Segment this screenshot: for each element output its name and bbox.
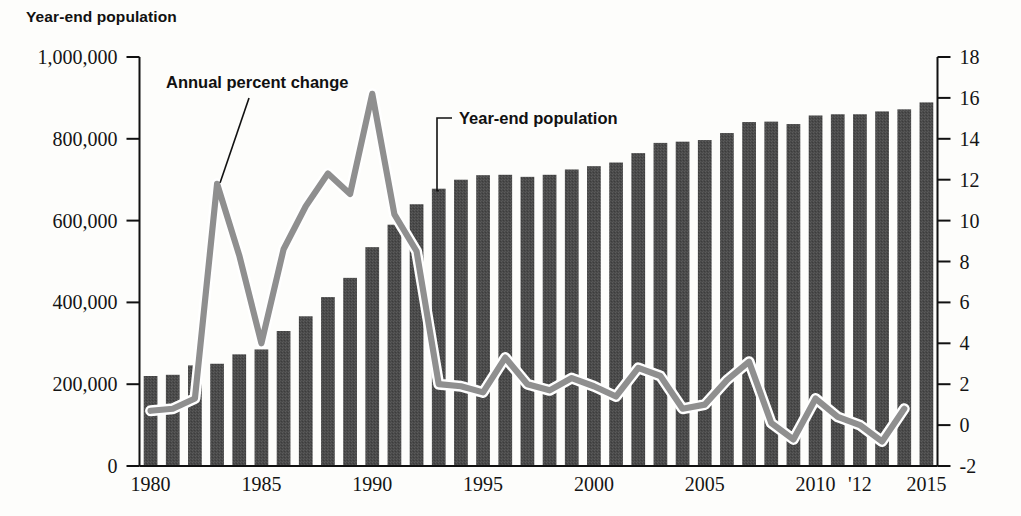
bar [587,166,601,466]
bar [277,331,291,466]
x-tick-label: 2000 [574,473,614,495]
y2-tick-label: 4 [960,332,970,354]
y2-tick-label: 2 [960,373,970,395]
bar [343,278,357,466]
bar [365,247,379,466]
bar-series [144,102,934,466]
population-combo-chart: 0200,000400,000600,000800,0001,000,000-2… [0,0,1021,516]
x-tick-label: 1980 [131,473,171,495]
x-tick-label: 2015 [906,473,946,495]
annotation-label: Annual percent change [166,73,348,91]
chart-container: Year-end population 0200,000400,000600,0… [0,0,1021,516]
y2-tick-label: 16 [960,87,980,109]
bar [543,175,557,466]
x-tick-label: 1995 [463,473,503,495]
y2-tick-label: 18 [960,46,980,68]
leader-line-annual-percent-change [220,98,249,183]
bar [454,180,468,466]
bar [609,163,623,466]
bar [853,114,867,466]
leader-line-year-end-population [437,118,452,191]
y2-tick-label: 8 [960,251,970,273]
annotation-label: Year-end population [459,109,618,127]
y-tick-label: 800,000 [53,128,118,150]
bar [144,376,158,466]
x-tick-label: 2010 [796,473,836,495]
bar [920,102,934,466]
y-tick-label: 200,000 [53,373,118,395]
y2-tick-label: 14 [960,128,980,150]
bar [166,375,180,466]
bar [232,354,246,466]
bar [388,225,402,466]
bar [654,143,668,466]
y-tick-label: 400,000 [53,291,118,313]
bar [255,349,269,466]
y-tick-label: 0 [108,455,118,477]
bar [321,297,335,466]
y2-tick-label: 12 [960,169,980,191]
x-tick-label: 2005 [685,473,725,495]
bar [787,124,801,466]
bar [299,316,313,466]
y2-tick-label: 0 [960,414,970,436]
bar [720,133,734,466]
bar [498,175,512,466]
bar [476,175,490,466]
x-tick-label: 1985 [241,473,281,495]
bar [742,122,756,466]
bar [565,169,579,466]
bar [210,364,224,466]
y2-tick-label: -2 [960,455,977,477]
x-tick-label: '12 [848,473,872,495]
bar [698,140,712,466]
y-tick-label: 600,000 [53,210,118,232]
bar [875,111,889,466]
y2-tick-label: 6 [960,291,970,313]
bar [631,153,645,466]
bar [676,142,690,466]
x-tick-label: 1990 [352,473,392,495]
y-tick-label: 1,000,000 [38,46,118,68]
y2-tick-label: 10 [960,210,980,232]
bar [521,177,535,466]
